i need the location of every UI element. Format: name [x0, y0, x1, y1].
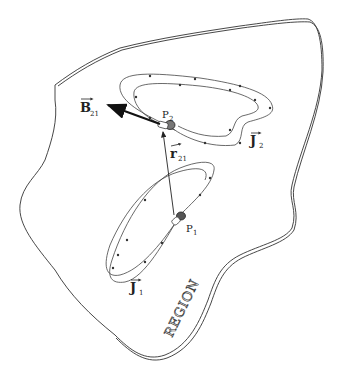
- magnetic-field-diagram: REGION J 2 J 1 P 2: [0, 0, 339, 373]
- j1-label: J: [129, 280, 136, 295]
- p2-label: P: [162, 109, 169, 120]
- j2-label: J: [249, 133, 256, 148]
- p1-subscript: 1: [193, 229, 197, 237]
- region-boundary: REGION: [20, 19, 323, 360]
- p1-label: P: [186, 223, 193, 234]
- current-loop-j2: J 2: [120, 74, 273, 150]
- j2-subscript: 2: [259, 142, 263, 150]
- r21-label: r: [170, 146, 177, 161]
- vector-b21: B 21: [80, 99, 160, 124]
- p2-subscript: 2: [169, 115, 173, 123]
- vector-r21: r 21: [163, 132, 187, 215]
- region-label: REGION: [161, 276, 202, 339]
- b21-subscript: 21: [90, 110, 99, 118]
- point-p1: P 1: [171, 212, 197, 237]
- point-p2: P 2: [157, 109, 175, 130]
- current-loop-j1: J 1: [106, 162, 214, 297]
- j1-subscript: 1: [139, 289, 143, 297]
- r21-subscript: 21: [178, 155, 187, 163]
